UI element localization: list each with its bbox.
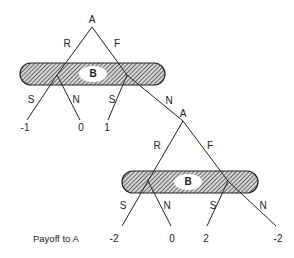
payoff-lower-1: -2 (110, 234, 119, 244)
edge-label-set2-right-n: N (259, 201, 266, 211)
edge-label-set1-left-n: N (72, 95, 79, 105)
node-label-root-a: A (89, 15, 96, 25)
edge-label-set1-right-n: N (165, 96, 172, 106)
payoff-upper-2: 0 (78, 123, 84, 133)
edge-label-set1-left-s: S (28, 95, 35, 105)
edge-label-root-f: F (114, 39, 120, 49)
node-label-second-a: A (180, 109, 187, 119)
edge-label-set2-left-s: S (120, 201, 127, 211)
edge-label-a2-r: R (153, 141, 160, 151)
node-label-info-set-1-b: B (89, 69, 96, 79)
payoff-lower-2: 0 (169, 234, 175, 244)
edge-label-set1-right-s: S (109, 95, 116, 105)
node-label-info-set-2-b: B (184, 177, 191, 187)
tree-edges (27, 27, 276, 226)
payoff-upper-1: -1 (21, 123, 30, 133)
edge-label-set2-right-s: S (210, 201, 217, 211)
edge-label-set2-left-n: N (163, 201, 170, 211)
payoff-caption: Payoff to A (33, 234, 79, 244)
edge-label-root-r: R (63, 39, 70, 49)
payoff-lower-4: -2 (274, 234, 283, 244)
game-tree-canvas (0, 0, 294, 258)
edge-label-a2-f: F (207, 141, 213, 151)
payoff-lower-3: 2 (203, 234, 209, 244)
payoff-upper-3: 1 (104, 123, 110, 133)
